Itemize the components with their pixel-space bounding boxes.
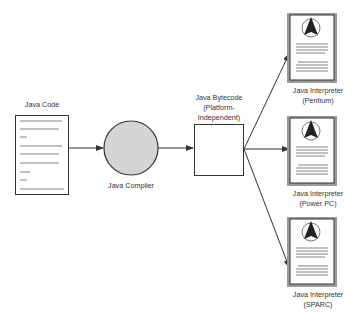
interpreter-pentium-label: Java Interpreter (Pentium) xyxy=(280,86,356,106)
interpreter-powerpc-label: Java Interpreter (Power PC) xyxy=(280,189,356,209)
java-compiler-label: Java Compiler xyxy=(96,181,166,191)
java-bytecode-label: Java Bytecode (Platform- Independent) xyxy=(184,93,254,123)
java-logo-document-icon-sparc xyxy=(287,217,337,287)
java-code-document-icon xyxy=(16,116,69,195)
java-platform-diagram: Java Code Java Compiler Java Bytecode (P… xyxy=(0,0,356,324)
java-code-label: Java Code xyxy=(12,100,72,110)
diagram-graphics xyxy=(0,0,356,324)
interpreter-sparc-label: Java Interpreter (SPARC) xyxy=(280,290,356,310)
java-logo-document-icon-pentium xyxy=(287,13,337,83)
bytecode-box-icon xyxy=(195,125,244,176)
java-logo-document-icon-powerpc xyxy=(287,116,337,186)
java-compiler-circle-icon xyxy=(104,121,158,175)
